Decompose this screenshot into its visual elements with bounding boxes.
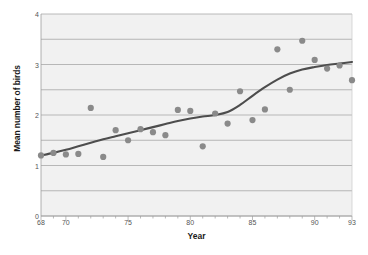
data-point xyxy=(63,151,69,157)
data-point xyxy=(262,106,268,112)
data-point xyxy=(212,110,218,116)
data-point xyxy=(249,117,255,123)
x-tick-label: 80 xyxy=(186,219,194,226)
chart-container: Mean number of birds 01234 6870758085909… xyxy=(0,0,368,255)
data-point xyxy=(349,77,355,83)
x-axis-ticks xyxy=(41,216,352,220)
data-point xyxy=(125,137,131,143)
data-point xyxy=(312,57,318,63)
data-point xyxy=(50,150,56,156)
data-point xyxy=(162,132,168,138)
x-tick-label: 68 xyxy=(37,219,45,226)
data-point xyxy=(137,126,143,132)
data-point xyxy=(336,62,342,68)
data-point xyxy=(225,120,231,126)
data-point xyxy=(274,46,280,52)
x-axis-title: Year xyxy=(41,231,352,241)
data-point xyxy=(200,143,206,149)
x-tick-label: 93 xyxy=(348,219,356,226)
data-point xyxy=(88,105,94,111)
plot-area xyxy=(0,0,368,255)
data-point xyxy=(75,151,81,157)
data-point xyxy=(100,154,106,160)
data-point xyxy=(38,152,44,158)
x-tick-label: 75 xyxy=(124,219,132,226)
x-tick-label: 85 xyxy=(249,219,257,226)
x-tick-label: 70 xyxy=(62,219,70,226)
data-point xyxy=(175,107,181,113)
data-point xyxy=(237,88,243,94)
x-tick-label: 90 xyxy=(311,219,319,226)
data-point xyxy=(324,65,330,71)
data-point xyxy=(150,129,156,135)
data-point xyxy=(113,127,119,133)
data-point xyxy=(287,87,293,93)
data-point xyxy=(299,38,305,44)
x-axis-title-label: Year xyxy=(188,231,206,241)
data-point xyxy=(187,108,193,114)
